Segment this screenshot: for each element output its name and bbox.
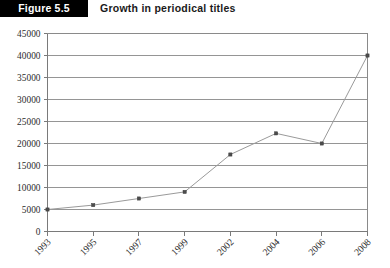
plot-area-border [48, 34, 368, 232]
x-tick-label: 2006 [306, 236, 327, 257]
x-tick-label: 1995 [77, 236, 98, 257]
data-point-marker [46, 208, 49, 211]
data-point-marker [92, 204, 95, 207]
data-point-marker [229, 153, 232, 156]
data-point-marker [183, 190, 186, 193]
y-tick-label: 20000 [17, 139, 41, 149]
data-point-marker [274, 132, 277, 135]
y-tick-label: 10000 [17, 183, 41, 193]
data-series-line [48, 56, 368, 210]
data-point-marker [366, 54, 369, 57]
x-tick-label: 1993 [32, 236, 53, 257]
chart-canvas: 0500010000150002000025000300003500040000… [0, 18, 390, 268]
x-tick-label: 2004 [260, 236, 281, 257]
y-tick-label: 25000 [17, 117, 41, 127]
y-tick-label: 15000 [17, 161, 41, 171]
x-tick-label: 2008 [352, 236, 373, 257]
data-point-marker [137, 197, 140, 200]
figure-title: Growth in periodical titles [100, 0, 236, 17]
line-chart: 0500010000150002000025000300003500040000… [0, 18, 390, 268]
x-axis-ticks: 19931995199719992002200420062008 [32, 232, 373, 258]
x-tick-label: 2002 [214, 236, 235, 257]
y-tick-label: 45000 [17, 29, 41, 39]
x-tick-label: 1999 [169, 236, 190, 257]
y-tick-label: 40000 [17, 51, 41, 61]
grid-lines [48, 34, 368, 210]
y-tick-label: 0 [36, 227, 41, 237]
y-tick-label: 35000 [17, 73, 41, 83]
figure-number-label: Figure 5.5 [0, 0, 88, 17]
y-axis-ticks: 0500010000150002000025000300003500040000… [17, 29, 47, 237]
data-point-marker [320, 142, 323, 145]
y-tick-label: 5000 [22, 205, 41, 215]
figure-header: Figure 5.5 Growth in periodical titles [0, 0, 390, 18]
figure-number-badge: Figure 5.5 [0, 0, 88, 17]
y-tick-label: 30000 [17, 95, 41, 105]
x-tick-label: 1997 [123, 236, 144, 257]
